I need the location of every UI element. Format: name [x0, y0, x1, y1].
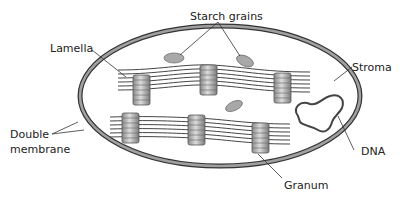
granum	[252, 123, 269, 153]
starch-grain	[224, 98, 244, 114]
granum	[200, 65, 217, 95]
granum	[133, 75, 150, 105]
double-membrane	[80, 26, 360, 166]
granum	[188, 115, 205, 145]
label-double-membrane-1: Double	[10, 128, 49, 141]
chloroplast-diagram: Starch grains Lamella Stroma Double memb…	[0, 0, 400, 200]
label-stroma: Stroma	[352, 61, 392, 74]
dna-loop	[296, 95, 343, 131]
label-lamella: Lamella	[50, 42, 93, 55]
granum	[122, 113, 139, 143]
label-starch-grains: Starch grains	[190, 10, 263, 23]
leader-lines	[52, 22, 354, 178]
label-granum: Granum	[284, 179, 328, 192]
granum	[274, 73, 291, 103]
label-double-membrane-2: membrane	[10, 143, 70, 156]
label-dna: DNA	[361, 145, 386, 158]
